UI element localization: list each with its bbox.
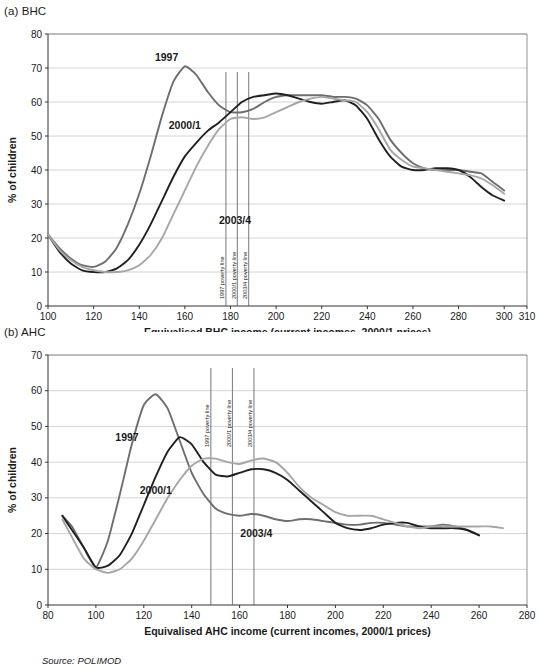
- svg-text:80: 80: [42, 610, 54, 621]
- svg-text:200: 200: [268, 311, 285, 322]
- svg-text:1997: 1997: [115, 431, 139, 443]
- svg-text:280: 280: [519, 610, 536, 621]
- source-note: Source: POLIMOD: [42, 655, 121, 666]
- svg-text:70: 70: [31, 350, 43, 361]
- svg-text:140: 140: [131, 311, 148, 322]
- svg-text:2003/4 poverty line: 2003/4 poverty line: [247, 400, 253, 447]
- svg-text:Equivalised AHC income (curren: Equivalised AHC income (current incomes,…: [144, 625, 431, 637]
- chart-ahc: 0102030405060708010012014016018020022024…: [0, 337, 539, 653]
- svg-text:30: 30: [31, 199, 43, 210]
- svg-text:80: 80: [31, 29, 43, 40]
- svg-text:40: 40: [31, 457, 43, 468]
- svg-text:70: 70: [31, 63, 43, 74]
- svg-text:1997 poverty line: 1997 poverty line: [219, 256, 225, 299]
- svg-text:0: 0: [36, 301, 42, 312]
- svg-text:240: 240: [423, 610, 440, 621]
- svg-text:2000/1 poverty line: 2000/1 poverty line: [231, 252, 237, 299]
- svg-text:10: 10: [31, 564, 43, 575]
- svg-text:140: 140: [183, 610, 200, 621]
- svg-text:2000/1: 2000/1: [140, 484, 172, 496]
- svg-text:2003/4: 2003/4: [219, 214, 251, 226]
- svg-text:2000/1: 2000/1: [169, 119, 201, 131]
- svg-text:30: 30: [31, 492, 43, 503]
- svg-text:100: 100: [88, 610, 105, 621]
- svg-text:180: 180: [279, 610, 296, 621]
- svg-text:280: 280: [450, 311, 467, 322]
- svg-text:Equivalised BHC income (curren: Equivalised BHC income (current incomes,…: [144, 326, 431, 332]
- svg-text:260: 260: [405, 311, 422, 322]
- svg-text:2000/1 poverty line: 2000/1 poverty line: [226, 400, 232, 447]
- svg-text:2003/4: 2003/4: [240, 527, 272, 539]
- svg-text:220: 220: [375, 610, 392, 621]
- svg-text:0: 0: [36, 600, 42, 611]
- svg-text:160: 160: [177, 311, 194, 322]
- svg-text:1997: 1997: [155, 51, 179, 63]
- svg-text:120: 120: [135, 610, 152, 621]
- svg-text:50: 50: [31, 421, 43, 432]
- svg-text:20: 20: [31, 528, 43, 539]
- svg-text:60: 60: [31, 385, 43, 396]
- svg-text:240: 240: [359, 311, 376, 322]
- svg-text:40: 40: [31, 165, 43, 176]
- svg-text:300: 300: [496, 311, 513, 322]
- svg-text:160: 160: [231, 610, 248, 621]
- svg-text:310: 310: [519, 311, 536, 322]
- svg-text:10: 10: [31, 267, 43, 278]
- svg-text:50: 50: [31, 131, 43, 142]
- svg-text:% of children: % of children: [6, 137, 18, 203]
- svg-text:120: 120: [85, 311, 102, 322]
- svg-text:60: 60: [31, 97, 43, 108]
- svg-text:200: 200: [327, 610, 344, 621]
- svg-text:220: 220: [313, 311, 330, 322]
- svg-text:1997 poverty line: 1997 poverty line: [204, 404, 210, 447]
- svg-text:180: 180: [222, 311, 239, 322]
- svg-text:260: 260: [471, 610, 488, 621]
- svg-text:% of children: % of children: [6, 447, 18, 513]
- svg-text:20: 20: [31, 233, 43, 244]
- svg-text:2003/4 poverty line: 2003/4 poverty line: [242, 252, 248, 299]
- svg-text:100: 100: [40, 311, 57, 322]
- chart-bhc: 0102030405060708010012014016018020022024…: [0, 16, 539, 332]
